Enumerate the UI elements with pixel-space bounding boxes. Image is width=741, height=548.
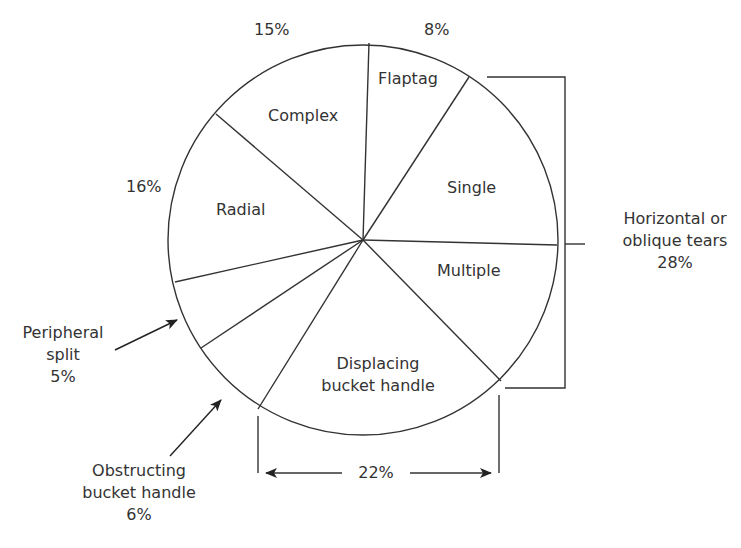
horizontal-pct: 28% [623, 252, 728, 274]
horizontal-line1: Horizontal or [623, 208, 728, 230]
obstructing-pct: 6% [82, 504, 196, 526]
slice-label-complex: Complex [268, 106, 338, 126]
slice-label-displacing: Displacing bucket handle [321, 353, 435, 397]
slice-label-radial: Radial [216, 200, 265, 220]
peripheral-line1: Peripheral [23, 322, 104, 344]
pct-label-flaptag: 8% [424, 20, 449, 40]
peripheral-split-label: Peripheral split 5% [23, 322, 104, 388]
peripheral-line2: split [23, 344, 104, 366]
peripheral-pct: 5% [23, 366, 104, 388]
horizontal-line2: oblique tears [623, 230, 728, 252]
horizontal-tears-label: Horizontal or oblique tears 28% [623, 208, 728, 274]
displacing-pct-label: 22% [358, 463, 394, 483]
displacing-line2: bucket handle [321, 375, 435, 397]
obstructing-arrow [170, 400, 221, 456]
slice-label-multiple: Multiple [437, 261, 501, 281]
pct-label-complex: 15% [254, 20, 290, 40]
obstructing-line2: bucket handle [82, 482, 196, 504]
peripheral-arrow [115, 320, 177, 350]
displacing-line1: Displacing [321, 353, 435, 375]
obstructing-label: Obstructing bucket handle 6% [82, 460, 196, 526]
slice-label-single: Single [447, 178, 496, 198]
slice-label-flaptag: Flaptag [378, 69, 438, 89]
pct-label-radial: 16% [126, 177, 162, 197]
obstructing-line1: Obstructing [82, 460, 196, 482]
